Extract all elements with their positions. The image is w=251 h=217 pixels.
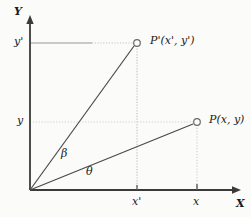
y-axis-label: Y [14,6,22,17]
point-marker-p [194,119,201,126]
angle-label-theta: θ [86,166,93,177]
x-tick-label-x: x [193,196,199,207]
diagram-canvas [0,0,251,217]
point-label-p-prime: P'(x', y') [150,35,194,46]
guide-lines [30,43,197,190]
point-marker-p-prime [134,40,141,47]
y-axis-arrowhead [26,15,33,24]
y-tick-label-y-prime: y' [14,36,23,47]
point-label-p: P(x, y) [209,114,244,125]
rotation-diagram: Y X y' y x' x P'(x', y') P(x, y) β θ [0,0,251,217]
plotted-points [134,40,201,126]
angle-label-beta: β [61,148,67,159]
x-tick-label-x-prime: x' [132,196,141,207]
y-tick-label-y: y [17,115,23,126]
x-axis-arrowhead [232,186,241,193]
rays [30,46,193,190]
x-axis-label: X [236,198,245,209]
